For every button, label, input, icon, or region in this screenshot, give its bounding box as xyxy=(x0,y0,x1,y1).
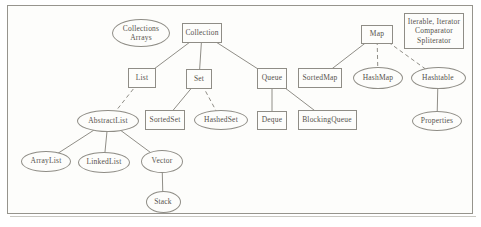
node-sortedmap: SortedMap xyxy=(298,68,342,88)
node-label-properties: Properties xyxy=(421,116,453,126)
node-set: Set xyxy=(186,69,212,89)
node-iterable-group: Iterable, Iterator Comparator Spliterato… xyxy=(404,13,464,49)
node-label-sortedmap: SortedMap xyxy=(302,73,337,83)
node-label-collections-arrays: Collections Arrays xyxy=(123,24,159,43)
diagram-canvas: Collections ArraysCollectionMapIterable,… xyxy=(0,0,481,227)
node-label-iterable-group: Iterable, Iterator Comparator Spliterato… xyxy=(408,17,460,46)
node-label-deque: Deque xyxy=(262,115,283,125)
node-vector: Vector xyxy=(141,150,183,173)
node-collections-arrays: Collections Arrays xyxy=(112,19,170,47)
node-stack: Stack xyxy=(146,191,181,213)
node-label-sortedset: SortedSet xyxy=(150,115,181,125)
node-blockingqueue: BlockingQueue xyxy=(298,110,357,130)
frame-shadow-line xyxy=(10,216,476,217)
node-label-queue: Queue xyxy=(262,73,283,83)
node-label-set: Set xyxy=(194,74,204,84)
node-label-linkedlist: LinkedList xyxy=(87,157,122,167)
node-hashtable: Hashtable xyxy=(411,67,466,89)
node-queue: Queue xyxy=(257,68,287,89)
node-map: Map xyxy=(361,25,393,44)
node-linkedlist: LinkedList xyxy=(78,152,130,173)
node-hashmap: HashMap xyxy=(353,67,403,89)
node-label-hashmap: HashMap xyxy=(363,73,394,83)
node-properties: Properties xyxy=(412,111,462,131)
node-list: List xyxy=(128,68,156,88)
node-label-blockingqueue: BlockingQueue xyxy=(302,115,352,125)
node-label-arraylist: ArrayList xyxy=(31,156,62,166)
node-label-list: List xyxy=(136,73,148,83)
node-sortedset: SortedSet xyxy=(145,110,185,130)
node-label-hashedset: HashedSet xyxy=(204,115,238,125)
node-arraylist: ArrayList xyxy=(21,151,71,172)
node-abstractlist: AbstractList xyxy=(77,110,139,132)
node-label-stack: Stack xyxy=(154,197,172,207)
node-label-abstractlist: AbstractList xyxy=(88,116,127,126)
node-label-hashtable: Hashtable xyxy=(422,73,454,83)
node-collection: Collection xyxy=(182,23,222,43)
node-deque: Deque xyxy=(257,111,287,130)
node-hashedset: HashedSet xyxy=(194,110,248,130)
node-label-map: Map xyxy=(370,29,384,39)
node-label-vector: Vector xyxy=(152,156,173,166)
node-label-collection: Collection xyxy=(185,28,218,38)
